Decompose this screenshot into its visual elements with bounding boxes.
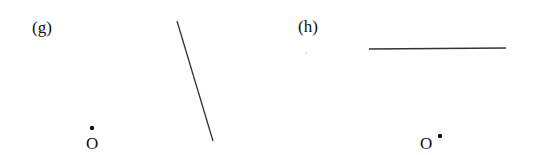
- diagram-canvas: (g) O (h) O: [0, 0, 559, 155]
- panel-h-segment: [369, 48, 506, 49]
- panel-g-point-label: O: [86, 134, 98, 153]
- panel-h: (h) O: [298, 17, 506, 153]
- panel-g: (g) O: [32, 18, 213, 153]
- panel-h-point-label: O: [420, 134, 432, 153]
- panel-g-point-o: [90, 126, 94, 130]
- panel-g-segment: [177, 21, 213, 141]
- stray-speck: [305, 52, 306, 53]
- panel-g-label: (g): [32, 18, 52, 37]
- panel-h-point-o: [438, 134, 442, 138]
- panel-h-label: (h): [298, 17, 318, 36]
